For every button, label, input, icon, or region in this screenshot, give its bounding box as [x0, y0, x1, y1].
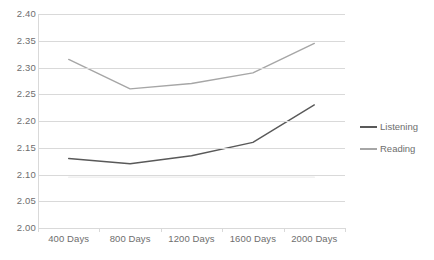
gridline [38, 201, 345, 202]
x-axis-tickmark [99, 228, 100, 232]
x-axis-tick-label: 400 Days [48, 233, 89, 245]
y-axis-tick-label: 2.05 [2, 196, 36, 206]
gridline [38, 68, 345, 69]
x-axis-tickmark [222, 228, 223, 232]
y-axis-tick-label: 2.40 [2, 9, 36, 19]
legend-swatch-icon [360, 148, 377, 150]
gridline [38, 14, 345, 15]
series-line-listening [69, 105, 315, 164]
legend-label: Reading [380, 143, 415, 154]
gridline [38, 121, 345, 122]
legend-item-listening[interactable]: Listening [360, 118, 434, 135]
x-axis: 400 Days800 Days1200 Days1600 Days2000 D… [38, 233, 345, 249]
chart-legend: ListeningReading [360, 118, 434, 162]
y-axis-tick-label: 2.20 [2, 116, 36, 126]
y-axis-tick-label: 2.00 [2, 223, 36, 233]
line-chart: 2.402.352.302.252.202.152.102.052.00 400… [0, 0, 434, 260]
legend-item-reading[interactable]: Reading [360, 140, 434, 157]
plot-area [38, 14, 345, 228]
y-axis-tick-label: 2.30 [2, 63, 36, 73]
x-axis-tickmark [38, 228, 39, 232]
gridline [38, 148, 345, 149]
series-line-reading [69, 43, 315, 88]
x-axis-tick-label: 1600 Days [230, 233, 276, 245]
gridline [38, 175, 345, 176]
x-axis-tick-label: 800 Days [110, 233, 151, 245]
gridline [38, 228, 345, 229]
gridline [38, 41, 345, 42]
y-axis-tick-label: 2.10 [2, 170, 36, 180]
legend-swatch-icon [360, 126, 377, 128]
x-axis-tickmark [161, 228, 162, 232]
x-axis-tickmark [284, 228, 285, 232]
legend-label: Listening [380, 121, 418, 132]
x-axis-tick-label: 2000 Days [291, 233, 337, 245]
y-axis: 2.402.352.302.252.202.152.102.052.00 [0, 0, 36, 260]
x-axis-tickmark [345, 228, 346, 232]
x-axis-tick-label: 1200 Days [168, 233, 214, 245]
y-axis-tick-label: 2.15 [2, 143, 36, 153]
y-axis-tick-label: 2.35 [2, 36, 36, 46]
y-axis-tick-label: 2.25 [2, 89, 36, 99]
gridline [38, 94, 345, 95]
